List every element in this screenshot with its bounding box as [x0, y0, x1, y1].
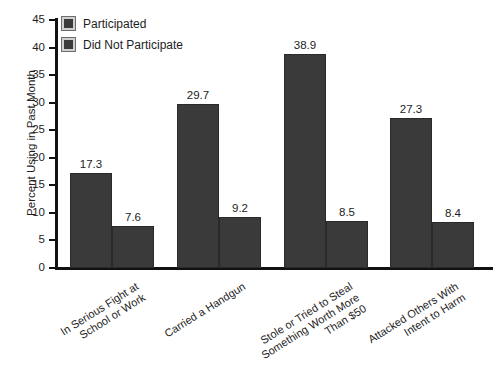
bar-value-label: 9.2 — [213, 202, 267, 214]
y-axis-tick-label-text: 25 — [19, 124, 45, 134]
y-axis-tick-label-text: 10 — [19, 207, 45, 217]
bar-value-label: 38.9 — [278, 39, 332, 51]
bar-value-label: 17.3 — [64, 158, 118, 170]
bar — [432, 222, 474, 268]
bar-value-label: 29.7 — [171, 89, 225, 101]
y-axis-tick-label-text: 0 — [19, 262, 45, 272]
y-axis-tick-label-text: 35 — [19, 69, 45, 79]
y-axis-tick-label-text: 30 — [19, 97, 45, 107]
legend: Participated Did Not Participate — [62, 14, 183, 56]
legend-label: Participated — [83, 17, 146, 31]
y-axis-tick — [49, 129, 56, 131]
y-axis-line — [55, 18, 58, 270]
legend-item-participated: Participated — [62, 14, 183, 33]
bar-value-label: 27.3 — [384, 103, 438, 115]
y-axis-tick-label-text: 45 — [19, 14, 45, 24]
legend-swatch-icon — [62, 17, 75, 30]
y-axis-tick — [49, 47, 56, 49]
y-axis-tick-label: 25 — [15, 124, 45, 134]
y-axis-tick — [49, 74, 56, 76]
legend-swatch-icon — [62, 38, 75, 51]
y-axis-tick-label: 35 — [15, 69, 45, 79]
bar — [284, 54, 326, 268]
bar-value-label: 8.5 — [320, 206, 374, 218]
y-axis-tick-label: 5 — [15, 234, 45, 244]
y-axis-tick-label: 0 — [15, 262, 45, 272]
y-axis-tick — [49, 267, 56, 269]
y-axis-tick-label: 40 — [15, 42, 45, 52]
legend-label: Did Not Participate — [83, 38, 183, 52]
bar — [219, 217, 261, 268]
bar-chart: Percent Using in Past Month 051015202530… — [0, 0, 496, 387]
y-axis-tick-label-text: 5 — [19, 234, 45, 244]
y-axis-tick — [49, 19, 56, 21]
y-axis-tick — [49, 102, 56, 104]
bar — [390, 118, 432, 268]
y-axis-tick — [49, 157, 56, 159]
y-axis-tick-label: 15 — [15, 179, 45, 189]
y-axis-title: Percent Using in Past Month — [22, 18, 40, 268]
y-axis-tick-label: 10 — [15, 207, 45, 217]
y-axis-tick-label: 45 — [15, 14, 45, 24]
y-axis-tick-label: 30 — [15, 97, 45, 107]
y-axis-tick-label-text: 40 — [19, 42, 45, 52]
bar-value-label: 7.6 — [106, 211, 160, 223]
y-axis-tick-label-text: 20 — [19, 152, 45, 162]
legend-item-did-not-participate: Did Not Participate — [62, 35, 183, 54]
bar — [112, 226, 154, 268]
y-axis-tick-label-text: 15 — [19, 179, 45, 189]
y-axis-tick — [49, 239, 56, 241]
bar — [326, 221, 368, 268]
y-axis-tick — [49, 212, 56, 214]
bar — [177, 104, 219, 268]
y-axis-tick — [49, 184, 56, 186]
bar-value-label: 8.4 — [426, 207, 480, 219]
y-axis-tick-label: 20 — [15, 152, 45, 162]
